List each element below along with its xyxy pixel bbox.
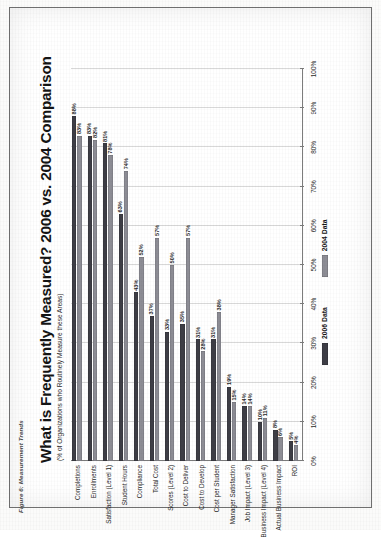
bar-value-label: 6%: [276, 428, 282, 436]
bar-y2004: [216, 312, 220, 461]
axis-tick-label: 100%: [310, 61, 317, 77]
bar-y2006: [134, 292, 138, 461]
category-label: Actual Business Impact: [274, 465, 281, 530]
bar-y2006: [118, 214, 122, 461]
bar-value-label: 74%: [122, 158, 128, 169]
bar-value-label: 15%: [230, 389, 236, 400]
category-label: ROI: [290, 465, 297, 476]
bar-group: Cost per Student31%38%: [211, 69, 223, 461]
category-label: Manager Satisfaction: [228, 465, 235, 524]
bar-y2006: [72, 116, 76, 461]
legend-item-2004: 2004 Data: [321, 220, 328, 278]
bar-y2004: [108, 155, 112, 461]
bar-value-label: 33%: [163, 319, 169, 330]
bar-y2004: [262, 418, 266, 461]
rotated-figure: Figure 6: Measurement Trends What is Fre…: [15, 15, 367, 515]
bar-value-label: 57%: [153, 225, 159, 236]
category-label: Business Impact (Level 4): [259, 465, 266, 537]
axis-tick-label: 0%: [310, 456, 317, 465]
bar-y2006: [87, 136, 91, 461]
bar-y2004: [232, 402, 236, 461]
bar-y2004: [201, 351, 205, 461]
bar-value-label: 28%: [199, 338, 205, 349]
bar-group: Cost to Develop31%28%: [195, 69, 207, 461]
bar-y2006: [257, 422, 261, 461]
bar-group: Business Impact (Level 4)10%11%: [257, 69, 269, 461]
bar-group: Total Cost37%57%: [149, 69, 161, 461]
bar-value-label: 50%: [168, 252, 174, 263]
axis-tick-label: 10%: [310, 415, 317, 428]
axis-tick-label: 40%: [310, 298, 317, 311]
bar-group: Job Impact (Level 3)14%14%: [242, 69, 254, 461]
bar-value-label: 19%: [225, 374, 231, 385]
axis-tick-label: 50%: [310, 259, 317, 272]
axis-tick-label: 30%: [310, 337, 317, 350]
bar-value-label: 11%: [261, 405, 267, 416]
bar-value-label: 82%: [91, 127, 97, 138]
bar-y2006: [242, 406, 246, 461]
axis-tick-label: 80%: [310, 141, 317, 154]
bar-y2006: [180, 324, 184, 461]
bar-y2004: [154, 238, 158, 461]
legend-item-2006: 2006 Data: [321, 307, 328, 365]
bar-value-label: 35%: [178, 311, 184, 322]
category-label: Student Hours: [120, 465, 127, 505]
category-label: Satisfaction (Level 1): [104, 465, 111, 524]
bar-y2004: [170, 265, 174, 461]
bar-group: Enrollments83%82%: [87, 69, 99, 461]
bar-value-label: 38%: [215, 299, 221, 310]
category-label: Completions: [73, 465, 80, 500]
bar-value-label: 83%: [75, 123, 81, 134]
category-axis-line: [302, 69, 303, 461]
category-label: Total Cost: [151, 465, 158, 493]
bar-y2006: [211, 339, 215, 461]
bar-y2006: [149, 316, 153, 461]
category-label: Cost to Develop: [197, 465, 204, 510]
category-label: Compliance: [135, 465, 142, 498]
bar-y2006: [195, 339, 199, 461]
category-label: Cost per Student: [212, 465, 219, 512]
category-label: Enrollments: [89, 465, 96, 498]
bar-y2004: [247, 406, 251, 461]
bar-y2006: [288, 441, 292, 461]
bar-y2004: [77, 136, 81, 461]
bar-value-label: 88%: [70, 103, 76, 114]
bar-value-label: 14%: [246, 393, 252, 404]
category-label: Scores (Level 2): [166, 465, 173, 511]
legend-label-2004: 2004 Data: [321, 220, 328, 252]
bar-y2006: [165, 332, 169, 461]
chart-legend: 2006 Data 2004 Data: [321, 220, 328, 366]
axis-tick-label: 60%: [310, 219, 317, 232]
chart-title: What is Frequently Measured? 2006 vs. 20…: [37, 56, 55, 463]
bar-value-label: 52%: [137, 244, 143, 255]
bar-value-label: 37%: [147, 303, 153, 314]
bar-value-label: 78%: [106, 142, 112, 153]
legend-swatch-2004-icon: [321, 255, 327, 277]
bar-group: Completions88%83%: [72, 69, 84, 461]
bar-value-label: 31%: [209, 327, 215, 338]
bar-y2004: [278, 437, 282, 461]
bar-group: Student Hours63%74%: [118, 69, 130, 461]
bar-y2004: [92, 140, 96, 461]
bar-y2004: [123, 171, 127, 461]
category-label: Job Impact (Level 3): [243, 465, 250, 522]
category-label: Cost to Deliver: [181, 465, 188, 506]
bar-y2004: [293, 445, 297, 461]
bar-y2004: [139, 257, 143, 461]
bar-group: ROI5%4%: [288, 69, 300, 461]
bar-y2006: [103, 143, 107, 461]
axis-tick-label: 20%: [310, 376, 317, 389]
bar-value-label: 31%: [194, 327, 200, 338]
figure-caption: Figure 6: Measurement Trends: [17, 420, 24, 513]
chart-subtitle: (% of Organizations who Routinely Measur…: [56, 294, 63, 462]
bar-group: Satisfaction (Level 1)81%78%: [103, 69, 115, 461]
bar-value-label: 63%: [116, 201, 122, 212]
bar-value-label: 4%: [292, 436, 298, 444]
axis-tick-label: 70%: [310, 180, 317, 193]
bar-group: Actual Business Impact8%6%: [273, 69, 285, 461]
bar-group: Scores (Level 2)33%50%: [165, 69, 177, 461]
legend-label-2006: 2006 Data: [321, 307, 328, 339]
plot-area: 0%10%20%30%40%50%60%70%80%90%100% Comple…: [71, 69, 303, 461]
bar-group: Compliance43%52%: [134, 69, 146, 461]
